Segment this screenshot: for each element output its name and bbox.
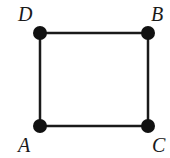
label-d: D [17, 3, 33, 25]
vertex-c [141, 119, 155, 133]
label-b: B [151, 3, 163, 25]
vertex-a [33, 119, 47, 133]
square-diagram: D B A C [0, 0, 170, 158]
label-c: C [152, 134, 166, 156]
vertex-b [141, 26, 155, 40]
vertex-d [33, 26, 47, 40]
label-a: A [16, 134, 31, 156]
